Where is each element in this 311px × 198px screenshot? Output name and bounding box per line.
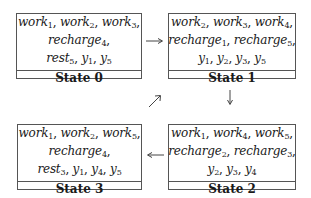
variable-name: work bbox=[171, 126, 201, 140]
variable-name: work bbox=[102, 15, 132, 29]
variable-name: recharge bbox=[168, 144, 221, 158]
state-line: recharge4, bbox=[48, 33, 110, 51]
variable-term: rest3 bbox=[37, 162, 65, 176]
variable-term: work4 bbox=[255, 15, 290, 29]
state-2-box: work1, work4, work5,recharge2, recharge3… bbox=[168, 124, 296, 190]
variable-name: work bbox=[255, 15, 285, 29]
variable-term: y5 bbox=[100, 51, 111, 65]
variable-name: y bbox=[226, 162, 233, 176]
variable-term: y2 bbox=[217, 51, 228, 65]
variable-term: y1 bbox=[81, 51, 92, 65]
arrow-left-icon bbox=[146, 151, 164, 159]
state-2-content: work1, work4, work5,recharge2, recharge3… bbox=[169, 125, 295, 182]
variable-term: y4 bbox=[245, 162, 256, 176]
arrow-down-icon bbox=[226, 90, 234, 106]
state-line: recharge4, bbox=[49, 144, 111, 162]
state-0-box: work1, work2, work3,recharge4,rest5, y1,… bbox=[16, 13, 142, 79]
variable-term: work5 bbox=[255, 126, 290, 140]
variable-term: recharge4 bbox=[49, 144, 107, 158]
state-0-label: State 0 bbox=[17, 71, 141, 85]
variable-term: y5 bbox=[110, 162, 121, 176]
variable-name: work bbox=[18, 15, 48, 29]
variable-name: y bbox=[198, 51, 205, 65]
variable-term: y1 bbox=[73, 162, 84, 176]
variable-term: y1 bbox=[198, 51, 209, 65]
variable-term: work4 bbox=[213, 126, 248, 140]
variable-term: work2 bbox=[60, 126, 95, 140]
variable-term: work1 bbox=[19, 126, 54, 140]
variable-term: work3 bbox=[102, 15, 137, 29]
variable-name: work bbox=[60, 15, 90, 29]
variable-name: work bbox=[19, 126, 49, 140]
state-3-box: work1, work2, work5,recharge4,rest3, y1,… bbox=[17, 124, 142, 190]
variable-name: rest bbox=[37, 162, 60, 176]
state-line: work1, work4, work5, bbox=[171, 126, 293, 144]
variable-name: y bbox=[100, 51, 107, 65]
arrow-right-icon bbox=[146, 37, 164, 45]
state-1-content: work2, work3, work4,recharge1, recharge5… bbox=[169, 14, 295, 71]
variable-term: y3 bbox=[236, 51, 247, 65]
state-line: recharge2, recharge3, bbox=[168, 144, 295, 162]
variable-subscript: 5 bbox=[261, 57, 266, 66]
variable-term: y4 bbox=[91, 162, 102, 176]
variable-name: recharge bbox=[168, 33, 221, 47]
variable-name: work bbox=[255, 126, 285, 140]
variable-name: y bbox=[254, 51, 261, 65]
state-1-box: work2, work3, work4,recharge1, recharge5… bbox=[168, 13, 296, 79]
variable-name: work bbox=[60, 126, 90, 140]
state-1-label: State 1 bbox=[169, 71, 295, 85]
variable-term: work3 bbox=[213, 15, 248, 29]
variable-term: y5 bbox=[254, 51, 265, 65]
state-line: rest3, y1, y4, y5 bbox=[37, 162, 121, 180]
variable-term: rest5 bbox=[46, 51, 74, 65]
state-3-label: State 3 bbox=[18, 182, 141, 196]
variable-name: y bbox=[91, 162, 98, 176]
variable-name: recharge bbox=[49, 144, 102, 158]
variable-term: y2 bbox=[208, 162, 219, 176]
variable-term: work5 bbox=[102, 126, 137, 140]
variable-name: y bbox=[110, 162, 117, 176]
variable-subscript: 5 bbox=[117, 168, 122, 177]
variable-name: recharge bbox=[234, 33, 287, 47]
state-3-content: work1, work2, work5,recharge4,rest3, y1,… bbox=[18, 125, 141, 182]
variable-subscript: 4 bbox=[252, 168, 257, 177]
state-line: work1, work2, work3, bbox=[18, 15, 140, 33]
variable-term: work1 bbox=[18, 15, 53, 29]
variable-term: recharge5 bbox=[234, 33, 292, 47]
variable-term: recharge4 bbox=[48, 33, 106, 47]
state-line: work2, work3, work4, bbox=[171, 15, 293, 33]
state-line: work1, work2, work5, bbox=[19, 126, 141, 144]
state-line: y2, y3, y4 bbox=[208, 162, 257, 180]
variable-term: work1 bbox=[171, 126, 206, 140]
state-2-label: State 2 bbox=[169, 182, 295, 196]
variable-subscript: 5 bbox=[107, 57, 112, 66]
state-line: y1, y2, y3, y5 bbox=[198, 51, 266, 69]
variable-term: y3 bbox=[226, 162, 237, 176]
variable-name: y bbox=[245, 162, 252, 176]
variable-name: recharge bbox=[48, 33, 101, 47]
arrow-up-right-icon bbox=[148, 94, 162, 108]
variable-term: recharge2 bbox=[168, 144, 226, 158]
variable-name: work bbox=[213, 15, 243, 29]
state-0-content: work1, work2, work3,recharge4,rest5, y1,… bbox=[17, 14, 141, 71]
variable-name: rest bbox=[46, 51, 69, 65]
variable-term: work2 bbox=[60, 15, 95, 29]
variable-name: recharge bbox=[234, 144, 287, 158]
variable-term: recharge3 bbox=[234, 144, 292, 158]
variable-term: work2 bbox=[171, 15, 206, 29]
variable-term: recharge1 bbox=[168, 33, 226, 47]
variable-name: work bbox=[213, 126, 243, 140]
state-line: recharge1, recharge5, bbox=[168, 33, 295, 51]
state-line: rest5, y1, y5 bbox=[46, 51, 111, 69]
variable-name: work bbox=[102, 126, 132, 140]
variable-name: work bbox=[171, 15, 201, 29]
